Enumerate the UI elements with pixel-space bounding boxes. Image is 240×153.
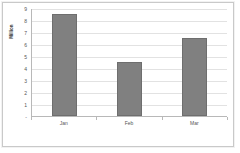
y-tick-label: 5	[24, 55, 27, 60]
x-label-feb: Feb	[96, 121, 161, 126]
x-tick	[31, 117, 32, 120]
y-tick-label: 8	[24, 19, 27, 24]
y-tick-label: 7	[24, 31, 27, 36]
y-tick-label: 4	[24, 67, 27, 72]
plot-wrapper: 9 8 7 6 5 4 3 2 1 -	[15, 9, 227, 125]
x-axis-category-labels: Jan Feb Mar	[31, 121, 227, 126]
bar-series	[32, 9, 227, 116]
x-tick	[162, 117, 163, 120]
bar-mar[interactable]	[182, 38, 207, 116]
y-tick-label: 1	[24, 103, 27, 108]
bar-feb[interactable]	[117, 62, 142, 116]
y-tick-label: 2	[24, 91, 27, 96]
bar-slot	[162, 9, 227, 116]
y-tick-label: -	[25, 115, 27, 120]
bar-slot	[32, 9, 97, 116]
bar-jan[interactable]	[52, 14, 77, 116]
y-axis-title: Million	[9, 12, 14, 52]
chart-frame: Million 9 8 7 6 5 4 3 2 1 -	[2, 2, 234, 147]
bar-slot	[97, 9, 162, 116]
x-tick	[96, 117, 97, 120]
y-tick-label: 3	[24, 79, 27, 84]
x-label-mar: Mar	[162, 121, 227, 126]
x-label-jan: Jan	[31, 121, 96, 126]
plot-area	[31, 9, 227, 117]
y-tick-label: 6	[24, 43, 27, 48]
y-axis-tick-labels: 9 8 7 6 5 4 3 2 1 -	[15, 9, 29, 117]
x-tick	[227, 117, 228, 120]
y-tick-label: 9	[24, 7, 27, 12]
